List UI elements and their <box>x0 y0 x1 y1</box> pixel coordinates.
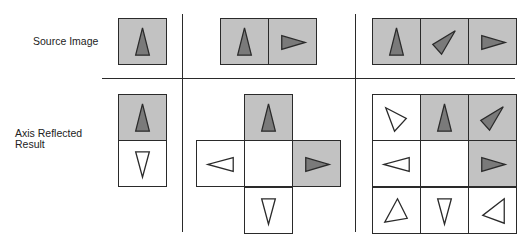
source-cell-triple-1 <box>420 18 469 65</box>
triangle-right-icon <box>469 141 516 186</box>
source-cell-pair-0 <box>220 18 269 65</box>
vertical-divider-1 <box>182 14 183 232</box>
result-cell-pair-4 <box>244 187 293 234</box>
triangle-downleft-icon <box>469 188 516 233</box>
result-cell-triple-4 <box>420 140 469 187</box>
triangle-up-icon <box>221 19 268 64</box>
triangle-left-icon <box>373 141 420 186</box>
triangle-upleft_r-icon <box>373 188 420 233</box>
source-cell-single-0 <box>118 18 167 65</box>
result-cell-triple-6 <box>372 187 421 234</box>
axis-reflected-label-line2: Result <box>15 139 82 150</box>
result-cell-single-0 <box>118 94 167 141</box>
horizontal-divider <box>102 78 515 79</box>
triangle-down-icon <box>421 188 468 233</box>
source-image-label: Source Image <box>33 36 98 47</box>
result-cell-triple-3 <box>372 140 421 187</box>
source-cell-pair-1 <box>268 18 317 65</box>
axis-reflection-diagram: Source Image Axis Reflected Result <box>0 0 527 246</box>
triangle-up-icon <box>119 19 166 64</box>
triangle-up-icon <box>421 95 468 140</box>
result-cell-triple-1 <box>420 94 469 141</box>
result-cell-pair-1 <box>196 140 245 187</box>
triangle-upright-icon <box>421 19 468 64</box>
triangle-right-icon <box>293 141 340 186</box>
triangle-upright-icon <box>469 95 516 140</box>
triangle-up-icon <box>119 95 166 140</box>
triangle-down-icon <box>119 141 166 186</box>
result-cell-triple-2 <box>468 94 517 141</box>
triangle-right-icon <box>269 19 316 64</box>
triangle-up-icon <box>245 95 292 140</box>
result-cell-triple-0 <box>372 94 421 141</box>
result-cell-triple-5 <box>468 140 517 187</box>
axis-reflected-result-label: Axis Reflected Result <box>15 128 82 150</box>
result-cell-triple-7 <box>420 187 469 234</box>
triangle-down-icon <box>245 188 292 233</box>
triangle-right-icon <box>469 19 516 64</box>
result-cell-triple-8 <box>468 187 517 234</box>
vertical-divider-2 <box>355 14 356 232</box>
result-cell-pair-3 <box>292 140 341 187</box>
source-cell-triple-0 <box>372 18 421 65</box>
triangle-up-icon <box>373 19 420 64</box>
result-cell-pair-0 <box>244 94 293 141</box>
source-cell-triple-2 <box>468 18 517 65</box>
triangle-left-icon <box>197 141 244 186</box>
triangle-downright-icon <box>373 95 420 140</box>
result-cell-single-1 <box>118 140 167 187</box>
result-cell-pair-2 <box>244 140 293 187</box>
